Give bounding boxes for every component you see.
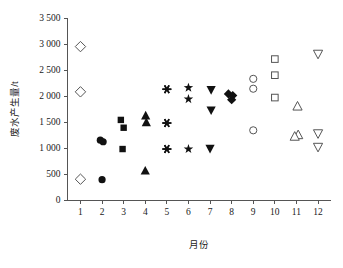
- y-tick-label: 500: [46, 169, 61, 179]
- data-point-open-circle: [250, 75, 257, 82]
- series-filled-diamond: [224, 89, 238, 104]
- series-open-triangle-down: [313, 50, 322, 152]
- x-tick-label: 7: [208, 207, 213, 217]
- data-point-open-diamond: [75, 87, 85, 97]
- x-tick-label: 3: [121, 207, 126, 217]
- series-open-square: [272, 56, 279, 101]
- data-point-filled-star: [184, 83, 194, 92]
- data-point-asterisk: [162, 145, 171, 153]
- asterisk-core: [165, 147, 168, 150]
- y-axis-title: 废水产生量/t: [9, 81, 20, 137]
- x-tick-label: 4: [143, 207, 148, 217]
- data-point-open-square: [272, 56, 279, 63]
- data-point-open-diamond: [75, 41, 85, 51]
- data-point-filled-triangle-up: [141, 111, 150, 120]
- data-point-filled-triangle-down: [205, 145, 214, 154]
- y-tick-label: 3 500: [39, 13, 61, 23]
- data-point-filled-triangle-up: [141, 166, 150, 175]
- data-point-filled-circle: [98, 176, 105, 183]
- x-tick-label: 2: [100, 207, 105, 217]
- data-point-filled-triangle-down: [207, 106, 216, 115]
- data-point-open-circle: [250, 85, 257, 92]
- data-point-open-triangle-down: [313, 143, 322, 152]
- series-filled-square: [118, 117, 127, 153]
- data-point-filled-triangle-down: [207, 86, 216, 95]
- series-filled-triangle-down: [205, 86, 215, 153]
- series-open-triangle-up: [290, 101, 303, 140]
- series-asterisk: [162, 85, 171, 153]
- y-tick-label: 0: [56, 195, 61, 205]
- data-point-open-square: [272, 72, 279, 79]
- y-tick-label: 2 000: [39, 91, 61, 101]
- data-point-asterisk: [162, 119, 171, 127]
- y-tick-label: 1 000: [39, 143, 61, 153]
- series-filled-star: [184, 83, 194, 153]
- data-point-open-triangle-down: [313, 50, 322, 59]
- x-tick-label: 8: [229, 207, 234, 217]
- asterisk-core: [165, 88, 168, 91]
- data-point-filled-square: [118, 117, 124, 123]
- data-point-filled-star: [184, 144, 194, 153]
- series-filled-circle: [97, 137, 107, 184]
- series-filled-triangle-up: [141, 111, 151, 175]
- data-point-open-circle: [250, 127, 257, 134]
- data-point-filled-square: [119, 146, 125, 152]
- data-point-filled-square: [120, 125, 126, 131]
- y-axis-ticks: 05001 0001 5002 0002 5003 0003 500: [39, 13, 67, 205]
- y-tick-label: 2 500: [39, 65, 61, 75]
- x-tick-label: 9: [251, 207, 256, 217]
- data-point-filled-circle: [100, 138, 107, 145]
- axes: [68, 18, 332, 201]
- x-tick-label: 6: [186, 207, 191, 217]
- x-tick-label: 5: [164, 207, 169, 217]
- data-point-asterisk: [162, 85, 171, 93]
- data-point-open-square: [272, 94, 279, 101]
- y-tick-label: 3 000: [39, 39, 61, 49]
- x-axis-title: 月份: [189, 239, 209, 250]
- series-open-circle: [250, 75, 257, 134]
- x-tick-label: 11: [292, 207, 301, 217]
- asterisk-core: [165, 121, 168, 124]
- data-point-open-diamond: [75, 174, 85, 184]
- x-tick-label: 10: [270, 207, 280, 217]
- x-tick-label: 1: [78, 207, 83, 217]
- x-axis-ticks: 123456789101112: [78, 200, 323, 217]
- data-point-open-triangle-down: [313, 130, 322, 139]
- x-tick-label: 12: [313, 207, 323, 217]
- data-point-open-triangle-up: [293, 101, 302, 110]
- scatter-plot: 05001 0001 5002 0002 5003 0003 500 12345…: [0, 0, 343, 268]
- series-open-diamond: [75, 41, 85, 184]
- data-point-filled-star: [184, 94, 194, 103]
- y-tick-label: 1 500: [39, 117, 61, 127]
- data-points: [75, 41, 322, 184]
- chart-figure: 05001 0001 5002 0002 5003 0003 500 12345…: [0, 0, 343, 268]
